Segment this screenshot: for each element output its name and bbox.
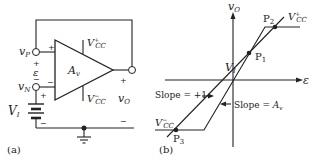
epsilon-minus: − [33,75,40,84]
vp-terminal [33,49,40,56]
unity-slope-line [167,17,284,137]
slope-av-label: Slope = Av [234,100,283,111]
vi-graph-label: VI [225,61,236,75]
vo-label: vO [118,92,130,106]
vp-label: vP [19,45,30,59]
graph-panel: vO ε P2 V+CC P1 VI Slope = +1 Slope = Av… [155,0,309,155]
p1-label: P1 [255,51,266,64]
source-minus-sign: − [40,119,47,128]
point-p3 [174,128,179,133]
vcc-neg-graph-label: V−CC [155,116,175,130]
input-minus-sign: − [47,78,54,87]
vn-terminal [33,84,40,91]
source-label: VI [8,104,20,119]
vcc-pos-graph-label: V+CC [288,10,308,24]
figure: vP + ε − vN + − + Av V+CC V−CC + vO − VI… [0,0,315,167]
p2-label: P2 [263,13,274,26]
slope-unity-label: Slope = +1 [155,90,207,100]
point-p1 [247,51,252,56]
input-plus-sign: + [48,43,55,52]
circuit-panel: vP + ε − vN + − + Av V+CC V−CC + vO − VI… [7,20,136,155]
output-plus-sign: + [120,76,127,85]
output-terminal [129,67,136,74]
output-minus-sign: − [120,117,127,126]
p3-label: P3 [173,133,184,146]
vcc-neg-label: V−CC [87,92,107,106]
av-curve [155,27,300,130]
vcc-pos-label: V+CC [87,36,107,50]
vn-label: vN [18,80,31,94]
x-axis-label: ε [303,74,309,87]
y-axis-label: vO [228,0,240,14]
source-plus-sign: + [40,91,47,100]
caption-a: (a) [7,144,21,155]
caption-b: (b) [159,144,173,155]
